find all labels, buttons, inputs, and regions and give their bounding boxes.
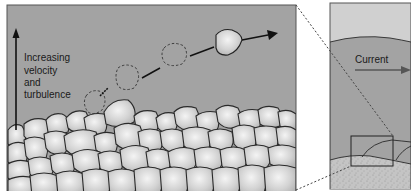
right-panel: Current — [330, 3, 411, 191]
sediment-transport-diagram: Increasing velocity and turbulence — [0, 0, 411, 191]
left-panel: Increasing velocity and turbulence — [7, 5, 296, 191]
current-label: Current — [355, 54, 389, 65]
